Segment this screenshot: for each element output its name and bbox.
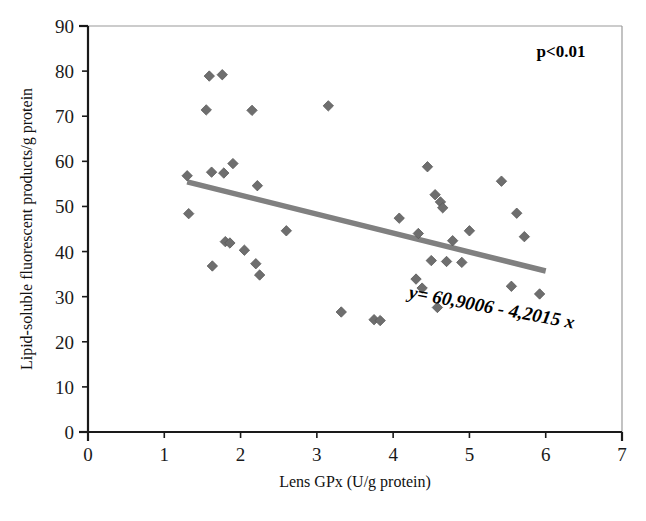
y-tick-label: 70 (55, 106, 74, 127)
x-axis-title: Lens GPx (U/g protein) (279, 473, 431, 491)
figure-container: 0102030405060708090 01234567 p<0.01 y= 6… (0, 0, 646, 521)
x-tick-label: 6 (541, 444, 551, 465)
x-tick-label: 0 (83, 444, 93, 465)
plot-background (0, 0, 646, 521)
y-axis-title: Lipid-soluble fluorescent products/g pro… (18, 88, 36, 370)
x-tick-label: 4 (388, 444, 398, 465)
x-tick-label: 2 (236, 444, 246, 465)
x-tick-label: 7 (617, 444, 627, 465)
figure-caption (18, 503, 628, 520)
y-tick-label: 0 (65, 422, 75, 443)
y-tick-label: 80 (55, 61, 74, 82)
y-tick-label: 10 (55, 377, 74, 398)
y-tick-label: 20 (55, 332, 74, 353)
y-tick-label: 60 (55, 151, 74, 172)
x-tick-label: 3 (312, 444, 322, 465)
x-tick-label: 1 (160, 444, 170, 465)
scatter-plot: 0102030405060708090 01234567 p<0.01 y= 6… (0, 0, 646, 521)
y-tick-label: 40 (55, 242, 74, 263)
p-value-annotation: p<0.01 (537, 42, 586, 61)
y-tick-label: 50 (55, 196, 74, 217)
y-tick-label: 30 (55, 287, 74, 308)
x-tick-label: 5 (465, 444, 475, 465)
y-tick-label: 90 (55, 16, 74, 37)
